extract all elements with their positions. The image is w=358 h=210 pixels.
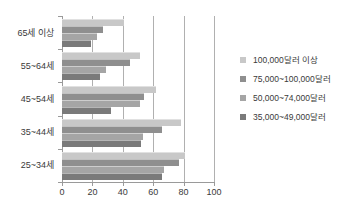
bar [62, 119, 181, 126]
legend-swatch-icon [240, 95, 246, 101]
gridline-100 [214, 16, 215, 182]
x-axis-line [62, 182, 215, 183]
bar [62, 19, 124, 26]
x-tick-100 [214, 182, 215, 186]
y-tick [58, 182, 62, 183]
category-label: 25~34세 [0, 160, 54, 170]
bar [62, 33, 97, 40]
x-tick-label: 60 [140, 187, 166, 198]
bar [62, 107, 111, 114]
bar [62, 73, 100, 80]
category-label: 45~54세 [0, 94, 54, 104]
x-tick-20 [92, 182, 93, 186]
legend-item[interactable]: 35,000~49,000달러 [240, 107, 356, 126]
legend-label: 100,000달러 이상 [253, 55, 318, 65]
bar [62, 100, 140, 107]
bar [62, 40, 91, 47]
bar [62, 133, 143, 140]
y-tick [58, 149, 62, 150]
legend-item[interactable]: 50,000~74,000달러 [240, 88, 356, 107]
legend-swatch-icon [240, 114, 246, 120]
x-tick-0 [62, 182, 63, 186]
x-tick-label: 100 [201, 187, 227, 198]
legend-label: 50,000~74,000달러 [253, 93, 326, 103]
x-tick-60 [153, 182, 154, 186]
x-tick-label: 80 [171, 187, 197, 198]
bar [62, 26, 103, 33]
x-tick-40 [123, 182, 124, 186]
chart-legend: 100,000달러 이상75,000~100,000달러50,000~74,00… [240, 50, 356, 126]
category-label: 65세 이상 [0, 28, 54, 38]
bar [62, 140, 141, 147]
bar [62, 126, 162, 133]
bar-chart: 65세 이상55~64세45~54세35~44세25~34세 020406080… [0, 0, 358, 210]
y-tick [58, 16, 62, 17]
bar [62, 166, 164, 173]
x-tick-label: 20 [79, 187, 105, 198]
legend-item[interactable]: 75,000~100,000달러 [240, 69, 356, 88]
y-tick [58, 49, 62, 50]
bar [62, 59, 130, 66]
y-tick [58, 116, 62, 117]
bar [62, 86, 156, 93]
x-tick-label: 0 [49, 187, 75, 198]
bar [62, 66, 106, 73]
y-tick [58, 82, 62, 83]
bar [62, 93, 144, 100]
legend-label: 75,000~100,000달러 [253, 74, 331, 84]
legend-item[interactable]: 100,000달러 이상 [240, 50, 356, 69]
x-tick-80 [184, 182, 185, 186]
bar [62, 152, 185, 159]
category-label: 55~64세 [0, 61, 54, 71]
legend-swatch-icon [240, 57, 246, 63]
category-label: 35~44세 [0, 127, 54, 137]
x-tick-label: 40 [110, 187, 136, 198]
legend-label: 35,000~49,000달러 [253, 112, 326, 122]
legend-swatch-icon [240, 76, 246, 82]
bar [62, 173, 162, 180]
bar [62, 159, 179, 166]
bar [62, 52, 140, 59]
